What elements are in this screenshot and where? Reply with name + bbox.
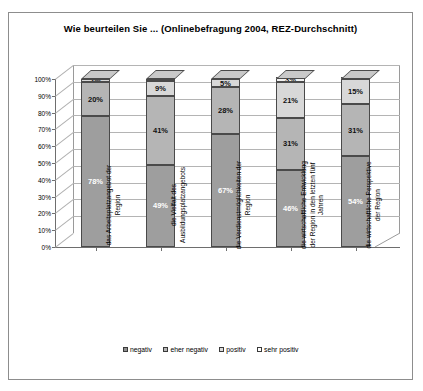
x-tick-mark bbox=[291, 247, 292, 251]
depth-connector bbox=[55, 65, 74, 80]
legend-item[interactable]: sehr positiv bbox=[257, 346, 299, 353]
category-label: die wirtschaftliche Entwicklung der Regi… bbox=[300, 157, 326, 253]
bar-value-label: 28% bbox=[218, 106, 233, 115]
y-tick-label: 0% bbox=[42, 244, 51, 251]
y-tick-label: 10% bbox=[38, 227, 51, 234]
legend-item[interactable]: eher negativ bbox=[163, 346, 208, 353]
bar-value-label: 20% bbox=[88, 95, 103, 104]
bar-side-face bbox=[109, 79, 110, 82]
category-label: die Vielfalt des Ausbildungsplatzangebot… bbox=[170, 157, 187, 253]
bar-side-face bbox=[304, 82, 305, 117]
depth-connector bbox=[55, 149, 74, 164]
legend-item[interactable]: negativ bbox=[123, 346, 152, 353]
bar-side-face bbox=[109, 82, 110, 116]
depth-connector bbox=[55, 115, 74, 130]
depth-connector bbox=[55, 99, 74, 114]
y-tick-label: 90% bbox=[38, 92, 51, 99]
bar-side-face bbox=[239, 79, 240, 87]
category-label: die Verdienstmöglichkeiten der Region bbox=[235, 157, 252, 253]
y-tick-label: 40% bbox=[38, 176, 51, 183]
depth-connector bbox=[55, 166, 74, 181]
bar-value-label: 9% bbox=[155, 84, 166, 93]
x-tick-mark bbox=[96, 247, 97, 251]
bar-side-face bbox=[369, 79, 370, 104]
bar-segment[interactable]: 31% bbox=[341, 104, 370, 156]
bar-value-label: 31% bbox=[348, 126, 363, 135]
category-label: die wirtschaftliche Perspektive der Regi… bbox=[365, 157, 382, 253]
bar-value-label: 5% bbox=[220, 79, 231, 87]
x-tick-mark bbox=[161, 247, 162, 251]
y-tick-label: 30% bbox=[38, 193, 51, 200]
bar-value-label: 21% bbox=[283, 96, 298, 105]
chart-legend: negativeher negativpositivsehr positiv bbox=[9, 346, 412, 353]
category-label: das Arbeitsplatzangebot der Region bbox=[105, 157, 122, 253]
bar-segment[interactable]: 28% bbox=[211, 87, 240, 134]
depth-connector bbox=[55, 132, 74, 147]
bar-segment[interactable]: 21% bbox=[276, 82, 305, 117]
bar-side-face bbox=[174, 96, 175, 165]
legend-label: eher negativ bbox=[170, 346, 207, 353]
x-tick-mark bbox=[226, 247, 227, 251]
bar-segment[interactable]: 41% bbox=[146, 96, 175, 165]
bar-segment[interactable]: 20% bbox=[81, 82, 110, 116]
bar-side-face bbox=[239, 87, 240, 134]
depth-connector bbox=[55, 82, 74, 97]
legend-label: negativ bbox=[130, 346, 152, 353]
y-tick-label: 70% bbox=[38, 126, 51, 133]
legend-label: positiv bbox=[226, 346, 245, 353]
legend-swatch-icon bbox=[219, 347, 224, 352]
chart-title: Wie beurteilen Sie ... (Onlinebefragung … bbox=[9, 23, 412, 34]
bar-side-face bbox=[174, 81, 175, 96]
bar-value-label: 2% bbox=[90, 79, 101, 82]
y-tick-label: 50% bbox=[38, 160, 51, 167]
bar-value-label: 78% bbox=[88, 177, 103, 186]
bar-value-label: 49% bbox=[153, 201, 168, 210]
bar-segment[interactable]: 15% bbox=[341, 79, 370, 104]
bar-value-label: 15% bbox=[348, 87, 363, 96]
y-tick-label: 60% bbox=[38, 143, 51, 150]
bar-segment[interactable]: 2% bbox=[81, 79, 110, 82]
grid-line bbox=[73, 65, 400, 66]
chart-frame: Wie beurteilen Sie ... (Onlinebefragung … bbox=[8, 12, 413, 380]
legend-swatch-icon bbox=[123, 347, 128, 352]
bar-segment[interactable]: 9% bbox=[146, 81, 175, 96]
depth-connector bbox=[55, 199, 74, 214]
x-tick-mark bbox=[356, 247, 357, 251]
depth-connector bbox=[55, 183, 74, 198]
legend-swatch-icon bbox=[257, 347, 262, 352]
legend-swatch-icon bbox=[163, 347, 168, 352]
bar-value-label: 67% bbox=[218, 186, 233, 195]
depth-connector bbox=[55, 216, 74, 231]
bar-value-label: 31% bbox=[283, 139, 298, 148]
y-tick-label: 80% bbox=[38, 109, 51, 116]
bar-value-label: 46% bbox=[283, 204, 298, 213]
bar-side-face bbox=[369, 104, 370, 156]
depth-connector bbox=[55, 233, 74, 248]
legend-item[interactable]: positiv bbox=[219, 346, 246, 353]
bar-value-label: 41% bbox=[153, 126, 168, 135]
legend-label: sehr positiv bbox=[264, 346, 298, 353]
y-tick-label: 100% bbox=[34, 76, 51, 83]
bar-segment[interactable]: 5% bbox=[211, 79, 240, 87]
y-tick-label: 20% bbox=[38, 210, 51, 217]
bar-value-label: 54% bbox=[348, 197, 363, 206]
